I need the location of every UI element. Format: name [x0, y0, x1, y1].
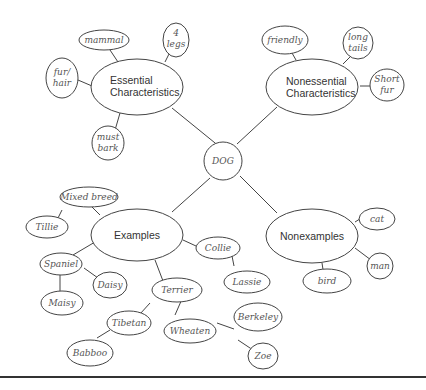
examples-node: Examples — [91, 209, 183, 261]
example-wheaten: Wheaten — [164, 319, 216, 343]
svg-text:Berkeley: Berkeley — [237, 312, 279, 322]
svg-text:Short: Short — [374, 74, 400, 84]
essential-item-fur-hair: fur/ hair — [46, 58, 78, 98]
example-berkeley: Berkeley — [234, 303, 282, 331]
essential-item-mammal: mammal — [79, 30, 129, 50]
nonexample-cat: cat — [359, 208, 395, 230]
svg-text:Nonexamples: Nonexamples — [280, 230, 344, 242]
essential-item-4-legs: 4 legs — [163, 23, 189, 57]
nonexample-bird: bird — [303, 269, 351, 293]
essential-item-must-bark: must bark — [92, 126, 124, 160]
svg-text:hair: hair — [53, 78, 72, 88]
svg-text:Maisy: Maisy — [47, 298, 76, 308]
svg-text:Daisy: Daisy — [96, 280, 123, 290]
example-daisy: Daisy — [93, 272, 127, 298]
center-node: DOG — [204, 142, 242, 180]
center-label: DOG — [211, 156, 234, 166]
svg-text:Examples: Examples — [114, 229, 160, 241]
example-lassie: Lassie — [224, 271, 270, 293]
svg-text:Mixed breed: Mixed breed — [59, 192, 118, 202]
svg-text:bird: bird — [318, 276, 337, 286]
svg-text:tails: tails — [348, 43, 368, 53]
nonexamples-node: Nonexamples — [266, 209, 358, 263]
svg-text:Characteristics: Characteristics — [286, 87, 355, 99]
svg-text:Tillie: Tillie — [36, 222, 59, 232]
svg-text:long: long — [348, 32, 368, 42]
example-terrier: Terrier — [152, 278, 202, 302]
example-zoe: Zoe — [248, 343, 278, 369]
svg-text:Characteristics: Characteristics — [110, 86, 179, 98]
essential-node: Essential Characteristics — [91, 59, 183, 115]
svg-text:mammal: mammal — [84, 35, 123, 45]
example-spaniel: Spaniel — [40, 253, 82, 275]
example-mixed-breed: Mixed breed — [59, 187, 118, 207]
svg-text:Spaniel: Spaniel — [44, 259, 78, 269]
svg-text:must: must — [97, 132, 120, 142]
example-babboo: Babboo — [67, 340, 113, 366]
nonessential-item-long-tails: long tails — [343, 27, 373, 59]
svg-text:Collie: Collie — [205, 243, 231, 253]
svg-text:Essential: Essential — [110, 74, 153, 86]
svg-text:friendly: friendly — [266, 35, 303, 45]
svg-text:Zoe: Zoe — [254, 351, 272, 361]
svg-text:4: 4 — [172, 28, 179, 38]
bottom-rule — [0, 376, 426, 378]
svg-text:Terrier: Terrier — [161, 285, 193, 295]
svg-text:Babboo: Babboo — [72, 348, 108, 358]
example-collie: Collie — [196, 237, 240, 259]
example-tibetan: Tibetan — [107, 311, 151, 335]
svg-text:Wheaten: Wheaten — [170, 326, 211, 336]
nonessential-node: Nonessential Characteristics — [266, 59, 358, 115]
svg-text:man: man — [370, 261, 390, 271]
svg-text:Tibetan: Tibetan — [112, 318, 147, 328]
example-tillie: Tillie — [26, 216, 68, 238]
svg-text:fur/: fur/ — [53, 67, 71, 77]
concept-map-svg: DOG Essential Characteristics mammal 4 l… — [0, 0, 426, 390]
svg-text:Nonessential: Nonessential — [286, 75, 347, 87]
svg-text:Lassie: Lassie — [232, 277, 262, 287]
nonessential-item-friendly: friendly — [262, 26, 308, 54]
svg-text:fur: fur — [379, 85, 394, 95]
concept-map: DOG Essential Characteristics mammal 4 l… — [0, 0, 426, 390]
nonessential-item-short-fur: Short fur — [370, 69, 404, 101]
svg-text:bark: bark — [98, 143, 119, 153]
example-maisy: Maisy — [41, 291, 83, 315]
nonexample-man: man — [367, 253, 393, 279]
svg-text:legs: legs — [167, 39, 186, 49]
svg-text:cat: cat — [370, 214, 384, 224]
